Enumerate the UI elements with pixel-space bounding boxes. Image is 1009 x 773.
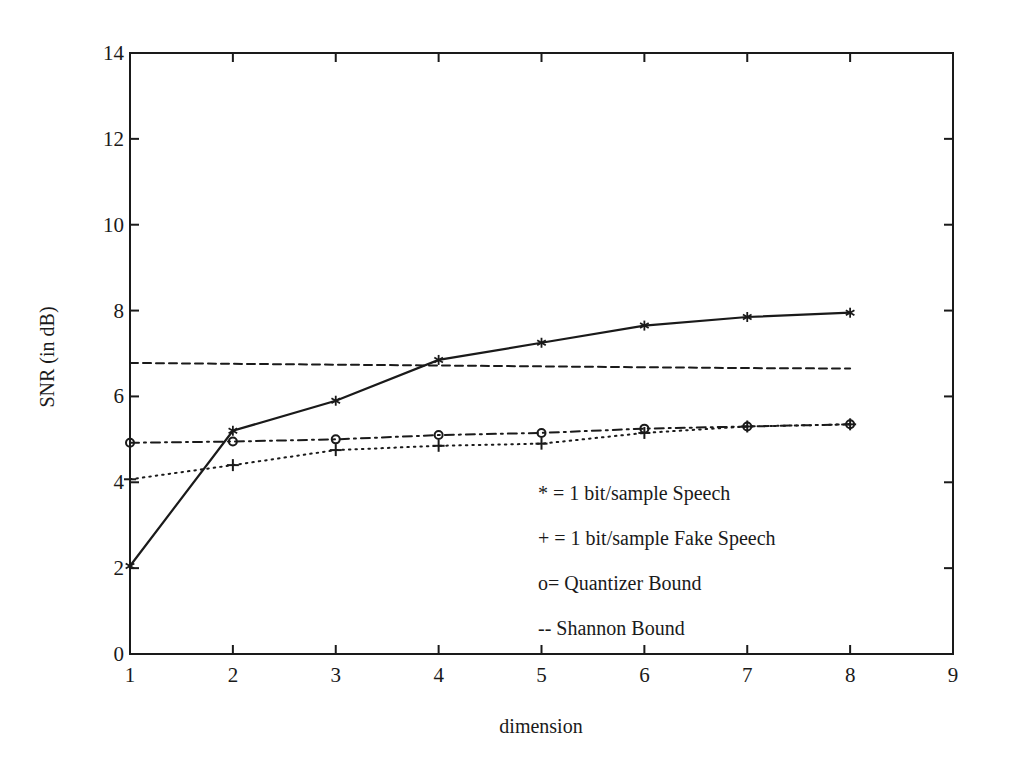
y-axis-ticks: 02468101214 — [103, 41, 953, 666]
y-tick-label: 6 — [114, 384, 125, 408]
plus-marker — [227, 459, 239, 471]
x-tick-label: 2 — [228, 663, 239, 687]
x-tick-label: 6 — [639, 663, 650, 687]
series-line — [130, 424, 850, 442]
series-1-bit-sample-fake-speech — [124, 418, 856, 485]
plot-border — [130, 53, 953, 654]
x-tick-label: 1 — [125, 663, 136, 687]
chart-canvas: 02468101214 123456789 * = 1 bit/sample S… — [0, 0, 1009, 773]
legend-entry: o= Quantizer Bound — [538, 572, 701, 594]
legend-entry: * = 1 bit/sample Speech — [538, 482, 730, 505]
y-tick-label: 4 — [114, 470, 125, 494]
plus-marker — [330, 444, 342, 456]
x-axis-title: dimension — [499, 715, 582, 737]
plot-frame — [130, 53, 953, 654]
legend: * = 1 bit/sample Speech+ = 1 bit/sample … — [538, 482, 776, 639]
legend-entry: + = 1 bit/sample Fake Speech — [538, 527, 776, 550]
series-shannon-bound — [130, 363, 850, 369]
legend-entry: -- Shannon Bound — [538, 617, 685, 639]
x-tick-label: 7 — [742, 663, 753, 687]
series-quantizer-bound — [126, 420, 854, 446]
x-tick-label: 4 — [433, 663, 444, 687]
y-tick-label: 12 — [103, 127, 124, 151]
plus-marker — [433, 440, 445, 452]
snr-vs-dimension-chart: 02468101214 123456789 * = 1 bit/sample S… — [0, 0, 1009, 773]
y-tick-label: 8 — [114, 299, 125, 323]
series-line — [130, 363, 850, 369]
plus-marker — [536, 438, 548, 450]
y-tick-label: 10 — [103, 213, 124, 237]
y-axis-title: SNR (in dB) — [36, 306, 59, 407]
x-tick-label: 3 — [331, 663, 342, 687]
x-tick-label: 9 — [948, 663, 959, 687]
series-line — [130, 424, 850, 479]
y-tick-label: 2 — [114, 556, 125, 580]
y-tick-label: 14 — [103, 41, 125, 65]
plus-marker — [124, 473, 136, 485]
x-tick-label: 5 — [536, 663, 547, 687]
x-tick-label: 8 — [845, 663, 856, 687]
y-tick-label: 0 — [114, 642, 125, 666]
